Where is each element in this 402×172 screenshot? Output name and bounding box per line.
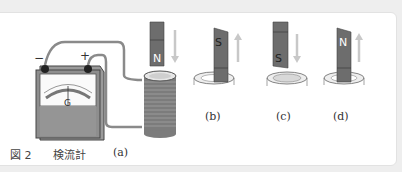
label-b: (b) [205, 110, 221, 123]
magnet-a: N [150, 22, 179, 66]
terminal-minus: − [34, 51, 44, 65]
coil-c [267, 72, 307, 86]
svg-text:N: N [339, 36, 347, 49]
label-c: (c) [276, 110, 291, 123]
label-d: (d) [333, 110, 349, 123]
label-a: (a) [113, 146, 128, 159]
svg-text:N: N [153, 52, 161, 65]
coil-a [144, 71, 176, 138]
svg-text:S: S [215, 36, 222, 49]
galvanometer-label: 検流計 [53, 146, 86, 162]
figure-number: 図 2 [10, 146, 32, 162]
terminal-plus: + [80, 49, 90, 63]
magnet-b: S [214, 28, 242, 82]
svg-text:S: S [275, 52, 282, 65]
magnet-c: S [273, 22, 301, 68]
